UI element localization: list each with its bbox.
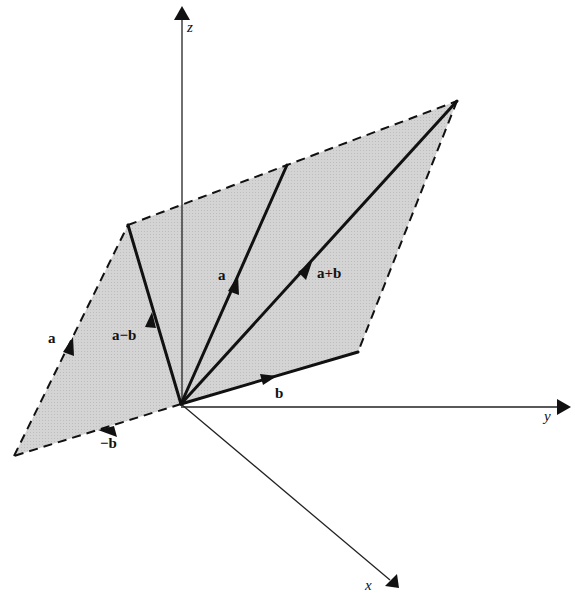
label-axis-y: y xyxy=(542,408,551,424)
label-axis-z: z xyxy=(186,19,193,35)
label-neg-b: −b xyxy=(100,435,117,451)
vector-diagram: a a+b a−b b a −b z y x xyxy=(0,0,575,602)
label-a-shifted: a xyxy=(48,330,56,346)
x-arrow-icon xyxy=(385,574,399,588)
label-axis-x: x xyxy=(364,577,372,593)
a-shifted-arrow-icon xyxy=(63,337,74,356)
label-a-plus-b: a+b xyxy=(317,265,341,281)
label-a-minus-b: a−b xyxy=(112,327,136,343)
label-a: a xyxy=(218,267,226,283)
z-arrow-icon xyxy=(174,6,190,20)
y-arrow-icon xyxy=(557,399,571,415)
label-b: b xyxy=(275,385,283,401)
x-axis xyxy=(181,404,390,580)
